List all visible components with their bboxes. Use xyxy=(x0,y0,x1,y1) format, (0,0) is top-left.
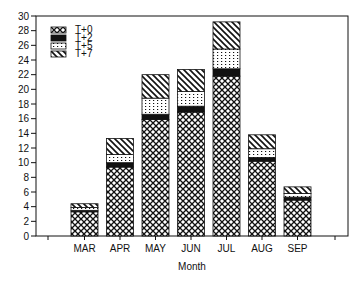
bar-segment-tplus7 xyxy=(213,22,240,49)
stacked-bar-chart: 024681012141618202224262830 MARAPRMAYJUN… xyxy=(0,0,364,283)
bar-segment-tplus0 xyxy=(107,167,134,236)
x-tick-label: JUL xyxy=(218,243,236,254)
y-tick-label: 22 xyxy=(18,69,30,80)
bar-segment-tplus0 xyxy=(71,212,98,236)
y-tick-label: 0 xyxy=(23,231,29,242)
bar-segment-tplus0 xyxy=(142,119,169,236)
bar-segment-tplus5 xyxy=(142,98,169,114)
x-axis-title: Month xyxy=(178,261,206,272)
bar-segment-tplus2 xyxy=(107,163,134,167)
bar-segment-tplus7 xyxy=(107,138,134,154)
bar-segment-tplus0 xyxy=(213,76,240,236)
x-tick-label: APR xyxy=(110,243,131,254)
legend-swatch xyxy=(51,51,66,57)
bar-segment-tplus0 xyxy=(249,161,276,236)
x-axis: MARAPRMAYJUNJULAUGSEP xyxy=(48,236,335,254)
y-tick-label: 14 xyxy=(18,128,30,139)
bars xyxy=(71,22,311,236)
bar-segment-tplus7 xyxy=(178,70,205,92)
y-tick-label: 30 xyxy=(18,11,30,22)
bar-segment-tplus7 xyxy=(284,187,311,194)
y-tick-label: 26 xyxy=(18,40,30,51)
bar-segment-tplus0 xyxy=(178,112,205,236)
bar-aug xyxy=(249,135,276,236)
y-tick-label: 4 xyxy=(23,201,29,212)
bar-segment-tplus2 xyxy=(249,158,276,162)
y-axis: 024681012141618202224262830 xyxy=(18,11,36,242)
bar-segment-tplus7 xyxy=(249,135,276,149)
bar-segment-tplus0 xyxy=(284,200,311,236)
y-tick-label: 10 xyxy=(18,157,30,168)
y-tick-label: 28 xyxy=(18,25,30,36)
y-tick-label: 8 xyxy=(23,172,29,183)
x-tick-label: AUG xyxy=(251,243,273,254)
legend-swatch xyxy=(51,27,66,33)
bar-segment-tplus5 xyxy=(284,193,311,197)
y-tick-label: 18 xyxy=(18,99,30,110)
bar-jul xyxy=(213,22,240,236)
x-tick-label: JUN xyxy=(181,243,200,254)
y-tick-label: 2 xyxy=(23,216,29,227)
x-tick-label: MAR xyxy=(73,243,95,254)
bar-segment-tplus5 xyxy=(249,149,276,158)
bar-segment-tplus7 xyxy=(71,204,98,208)
x-tick-label: MAY xyxy=(145,243,166,254)
bar-segment-tplus2 xyxy=(178,106,205,112)
bar-jun xyxy=(178,70,205,236)
legend-label: T+7 xyxy=(75,48,93,59)
bar-segment-tplus5 xyxy=(213,49,240,69)
y-tick-label: 12 xyxy=(18,143,30,154)
bar-segment-tplus2 xyxy=(213,69,240,76)
bar-segment-tplus5 xyxy=(178,92,205,107)
bar-segment-tplus7 xyxy=(142,75,169,98)
legend-swatch xyxy=(51,35,66,41)
legend-swatch xyxy=(51,43,66,49)
bar-apr xyxy=(107,138,134,236)
y-tick-label: 24 xyxy=(18,55,30,66)
legend: T+0T+2T+5T+7 xyxy=(51,24,93,59)
y-tick-label: 6 xyxy=(23,187,29,198)
bar-segment-tplus5 xyxy=(71,207,98,210)
legend-item: T+7 xyxy=(51,48,93,59)
x-tick-label: SEP xyxy=(287,243,307,254)
bar-segment-tplus5 xyxy=(107,155,134,163)
bar-may xyxy=(142,75,169,236)
y-tick-label: 16 xyxy=(18,113,30,124)
bar-segment-tplus2 xyxy=(284,197,311,200)
bar-sep xyxy=(284,187,311,236)
bar-segment-tplus2 xyxy=(142,114,169,119)
y-tick-label: 20 xyxy=(18,84,30,95)
bar-mar xyxy=(71,204,98,236)
